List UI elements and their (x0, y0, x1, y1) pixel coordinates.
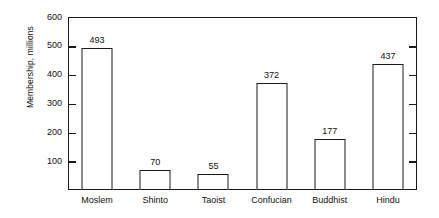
x-axis-category-label: Buddhist (301, 195, 359, 205)
bar[interactable] (140, 170, 171, 190)
bar-group: 437 (359, 17, 417, 190)
bar-value-label: 177 (322, 127, 337, 136)
y-axis-tick-label: 300 (28, 99, 62, 108)
bar-value-label: 70 (150, 158, 160, 167)
y-axis-tick-label: 100 (28, 157, 62, 166)
bar[interactable] (256, 83, 287, 190)
bar-group: 372 (243, 17, 301, 190)
bar[interactable] (314, 139, 345, 190)
x-axis-category-labels: MoslemShintoTaoistConfucianBuddhistHindu (68, 195, 417, 211)
bars-layer: 4937055372177437 (68, 17, 417, 190)
x-axis-category-label: Hindu (359, 195, 417, 205)
y-axis-tick-label: 400 (28, 70, 62, 79)
bar[interactable] (82, 48, 113, 190)
bar-group: 70 (126, 17, 184, 190)
y-axis-tick-label: 600 (28, 13, 62, 22)
bar-group: 55 (184, 17, 242, 190)
y-axis-tick-labels: 100200300400500600 (28, 0, 62, 218)
bar-chart: Membership, millions 100200300400500600 … (0, 0, 439, 218)
x-axis-category-label: Shinto (126, 195, 184, 205)
bar-value-label: 55 (208, 162, 218, 171)
x-axis-category-label: Taoist (184, 195, 242, 205)
bar[interactable] (372, 64, 403, 190)
bar-group: 493 (68, 17, 126, 190)
bar-group: 177 (301, 17, 359, 190)
bar-value-label: 437 (380, 52, 395, 61)
bar-value-label: 372 (264, 71, 279, 80)
y-axis-tick-label: 500 (28, 41, 62, 50)
bar[interactable] (198, 174, 229, 190)
y-axis-tick-label: 200 (28, 128, 62, 137)
bar-value-label: 493 (90, 36, 105, 45)
x-axis-category-label: Confucian (243, 195, 301, 205)
x-axis-category-label: Moslem (68, 195, 126, 205)
